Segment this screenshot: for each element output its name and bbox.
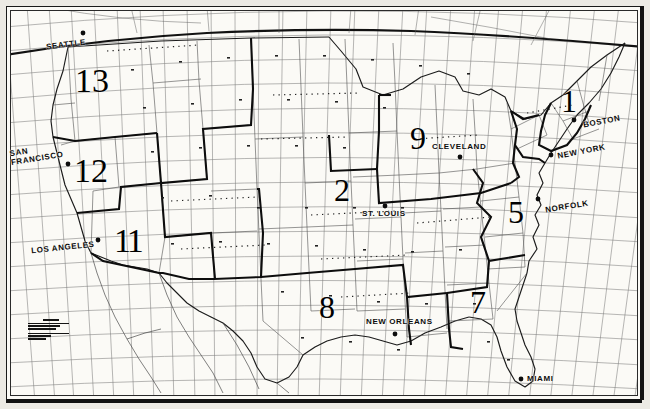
map-frame-right-rule (640, 6, 644, 400)
us-zone-map: 13 12 11 9 2 5 7 8 1 SEATTLE SAN FRANCIS… (0, 0, 650, 409)
map-paper-fill (11, 11, 637, 395)
map-frame-bottom-rule (6, 399, 642, 403)
map-canvas (11, 11, 637, 395)
map-vector-layer (11, 11, 637, 395)
